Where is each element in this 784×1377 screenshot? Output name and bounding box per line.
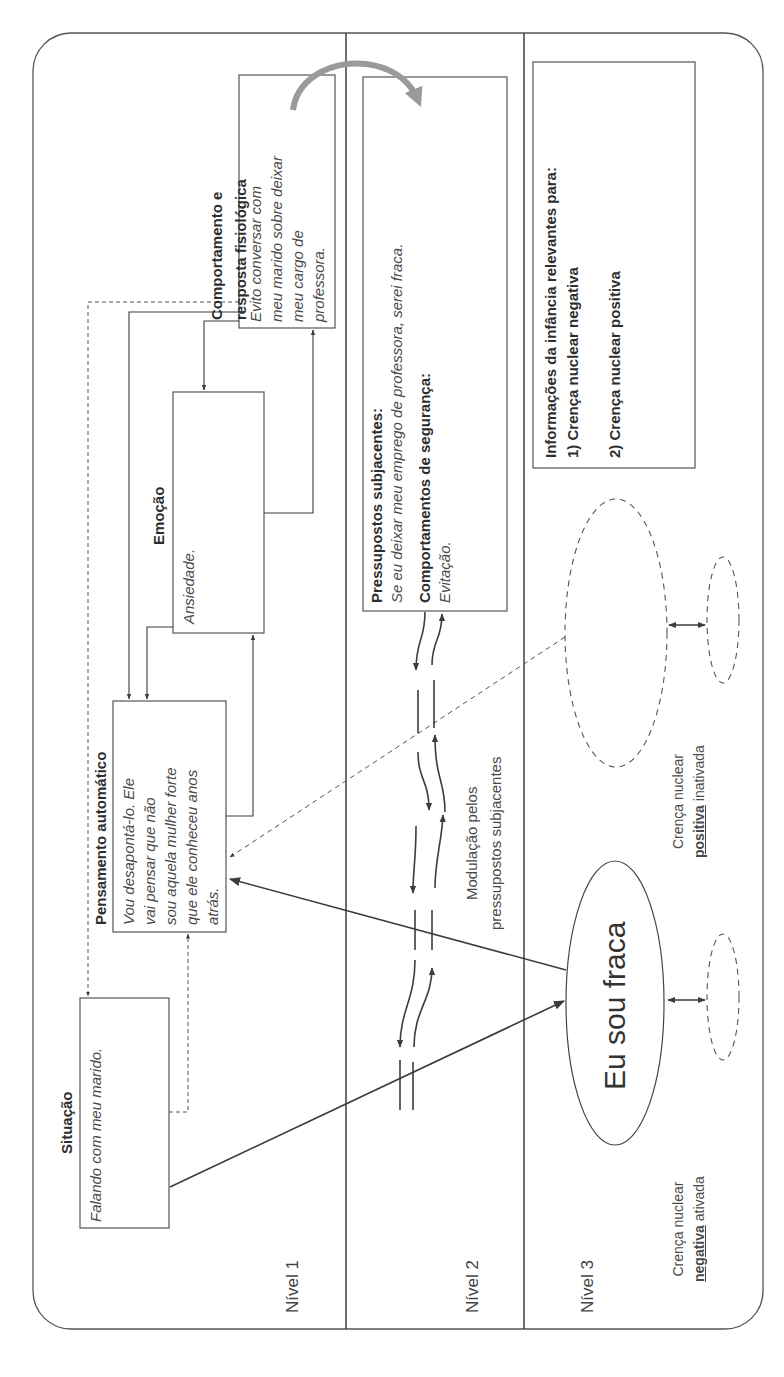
emotion-title: Emoção <box>150 487 168 545</box>
modulation-caption: Modulação pelos pressupostos subjacentes <box>460 757 508 930</box>
arrow-behavior-to-emotion <box>204 321 239 390</box>
modulation-arrows <box>400 612 445 1110</box>
automatic-thought-title: Pensamento automático <box>92 752 110 925</box>
level-2-label: Nível 2 <box>463 1260 483 1313</box>
automatic-thought-text: Vou desapontá-lo. Ele vai pensar que não… <box>118 767 223 925</box>
childhood-info-item-2: 2) Crença nuclear positiva <box>604 167 626 458</box>
diagram-canvas <box>0 0 784 1377</box>
behavior-text: Evito conversar com meu marido sobre dei… <box>245 156 329 322</box>
childhood-info-block: Informações da infância relevantes para:… <box>540 167 626 458</box>
core-belief-positive-ellipse <box>565 499 667 767</box>
arrow-positive-belief-to-thought <box>230 637 565 857</box>
childhood-info-title: Informações da infância relevantes para: <box>540 167 562 458</box>
childhood-positive-ellipse <box>707 557 739 683</box>
safety-behaviors-text: Evitação. <box>435 244 455 603</box>
level-1-label: Nível 1 <box>283 1260 303 1313</box>
arrow-core-belief-to-thought <box>230 879 566 970</box>
situation-title: Situação <box>58 1091 76 1154</box>
emotion-text: Ansiedade. <box>180 549 198 624</box>
arrow-situation-to-core-belief <box>170 1001 564 1187</box>
arrow-thought-to-emotion <box>226 635 253 816</box>
assumptions-title: Pressupostos subjacentes: <box>367 244 387 603</box>
childhood-negative-ellipse <box>707 934 739 1060</box>
safety-behaviors-title: Comportamentos de segurança: <box>415 244 435 603</box>
assumptions-block: Pressupostos subjacentes: Se eu deixar m… <box>367 244 455 603</box>
positive-belief-caption: Crença nuclear positiva inativada <box>668 745 710 858</box>
negative-belief-caption: Crença nuclear negativa ativada <box>668 1176 710 1282</box>
childhood-info-item-1: 1) Crença nuclear negativa <box>562 167 584 458</box>
core-belief-text: Eu sou fraca <box>597 922 632 1090</box>
arrow-situation-to-thought <box>169 934 188 1112</box>
assumptions-text: Se eu deixar meu emprego de professora, … <box>387 244 407 603</box>
level-3-label: Nível 3 <box>578 1260 598 1313</box>
arrow-emotion-to-behavior <box>264 330 313 513</box>
situation-text: Falando com meu marido. <box>87 1048 105 1222</box>
arrow-emotion-to-thought <box>147 627 173 699</box>
